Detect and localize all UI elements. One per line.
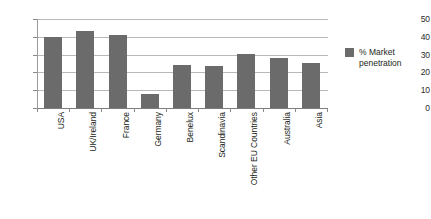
x-axis-label: Germany bbox=[154, 112, 163, 147]
x-axis-label: USA bbox=[57, 112, 66, 129]
bar bbox=[76, 31, 94, 108]
x-axis-label: Australia bbox=[283, 112, 292, 145]
bar bbox=[270, 58, 288, 108]
y-tick-label: 50 bbox=[400, 15, 430, 24]
y-tick-label: 10 bbox=[400, 86, 430, 95]
legend-label: % Market penetration bbox=[359, 47, 431, 69]
x-tick-mark bbox=[101, 108, 102, 112]
y-tick-label: 40 bbox=[400, 33, 430, 42]
x-tick-mark bbox=[198, 108, 199, 112]
x-axis-label: UK/Ireland bbox=[89, 112, 98, 152]
bar bbox=[173, 65, 191, 108]
x-tick-mark bbox=[230, 108, 231, 112]
legend-swatch-icon bbox=[345, 48, 354, 57]
chart-legend: % Market penetration bbox=[345, 47, 431, 69]
bar bbox=[44, 37, 62, 108]
x-tick-mark bbox=[69, 108, 70, 112]
x-tick-mark bbox=[134, 108, 135, 112]
x-axis-label: France bbox=[122, 112, 131, 138]
x-axis-label: Scandinavia bbox=[218, 112, 227, 158]
bar bbox=[141, 94, 159, 108]
x-axis-label: Benelux bbox=[186, 112, 195, 142]
y-tick-label: 0 bbox=[400, 104, 430, 113]
bar bbox=[237, 54, 255, 108]
gridline bbox=[38, 19, 328, 20]
x-axis-label: Other EU Countries bbox=[250, 112, 259, 185]
x-axis-label: Asia bbox=[315, 112, 324, 128]
x-tick-mark bbox=[263, 108, 264, 112]
x-axis-line bbox=[38, 108, 328, 109]
x-tick-mark bbox=[295, 108, 296, 112]
bar bbox=[109, 35, 127, 108]
bar bbox=[205, 66, 223, 108]
bar bbox=[302, 63, 320, 108]
x-tick-mark bbox=[37, 108, 38, 112]
x-tick-mark bbox=[327, 108, 328, 112]
y-tick-label: 20 bbox=[400, 68, 430, 77]
x-tick-mark bbox=[166, 108, 167, 112]
